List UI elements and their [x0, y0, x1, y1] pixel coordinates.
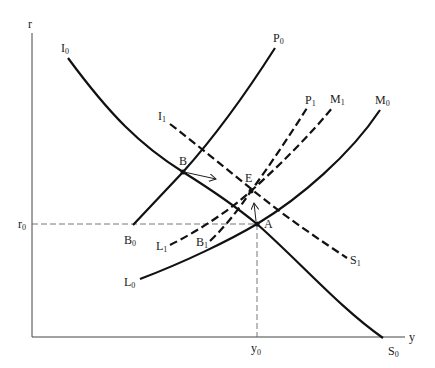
curve-is0-end-label: S0 [388, 344, 399, 359]
curve-is1-label: I1 [158, 109, 166, 124]
point-a [255, 222, 260, 227]
arrow-a-upward-icon [254, 203, 256, 221]
curve-bp1-label: P1 [305, 93, 316, 108]
curve-bp0 [133, 48, 275, 225]
curve-lm0-end-label: L0 [124, 275, 135, 290]
curve-lm0 [140, 110, 380, 279]
point-e [249, 189, 254, 194]
curve-is0-label: I0 [61, 41, 69, 56]
x-axis-label: y [409, 330, 415, 344]
curve-lm1-end-label: L1 [156, 239, 167, 254]
curve-lm1-label: M1 [330, 92, 345, 107]
curve-bp1-end-label: B1 [196, 235, 208, 250]
r0-label: r0 [18, 217, 26, 232]
curve-bp0-label: P0 [273, 31, 284, 46]
y0-label: y0 [251, 341, 261, 357]
point-b-label: B [179, 154, 187, 168]
point-e-label: E [245, 171, 252, 185]
curve-is1-end-label: S1 [350, 253, 361, 268]
curve-bp0-end-label: B0 [124, 233, 136, 248]
point-a-label: A [264, 217, 273, 231]
y-axis-label: r [28, 17, 32, 31]
is-lm-bp-diagram: r y r0 y0 I0 S0 I1 S1 P0 B0 P1 B1 M0 L0 … [0, 0, 435, 368]
curve-lm0-label: M0 [375, 93, 390, 108]
